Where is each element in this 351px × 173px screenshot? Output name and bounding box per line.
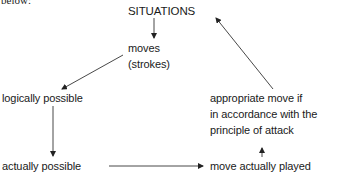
flow-diagram: below: SITUATIONS moves (strokes) logica… — [0, 0, 351, 173]
arrows — [0, 0, 351, 173]
arrow-appropriate-to-situations — [216, 18, 273, 89]
arrow-moves-to-logically — [62, 55, 123, 89]
